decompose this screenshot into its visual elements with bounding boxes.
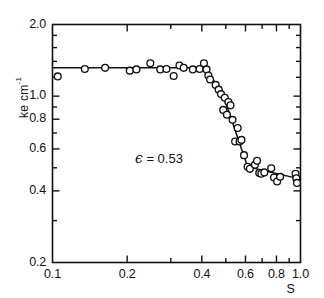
- y-axis-label-exponent: -1: [14, 76, 23, 84]
- figure-container: ke cm-1 2.01.00.80.60.40.2 0.10.20.40.60…: [0, 0, 324, 298]
- y-tick-label: 0.8: [0, 111, 46, 125]
- epsilon-value: = 0.53: [143, 151, 183, 166]
- epsilon-annotation: ϵ = 0.53: [135, 150, 183, 166]
- y-tick-label: 0.6: [0, 141, 46, 155]
- y-tick-label: 0.4: [0, 183, 46, 197]
- x-tick-label: 0.8: [268, 267, 285, 281]
- x-tick-label: 0.4: [193, 267, 210, 281]
- x-tick-label: 1.0: [292, 267, 309, 281]
- x-axis-label: S: [287, 282, 295, 296]
- y-tick-label: 2.0: [0, 17, 46, 31]
- x-tick-label: 0.6: [237, 267, 254, 281]
- y-tick-label: 0.2: [0, 255, 46, 269]
- data-points: [54, 60, 300, 186]
- x-tick-label: 0.1: [44, 267, 61, 281]
- y-tick-label: 1.0: [0, 88, 46, 102]
- axis-frame: [53, 25, 301, 263]
- axis-ticks: [53, 25, 301, 263]
- x-tick-label: 0.2: [119, 267, 136, 281]
- epsilon-symbol: ϵ: [135, 150, 143, 166]
